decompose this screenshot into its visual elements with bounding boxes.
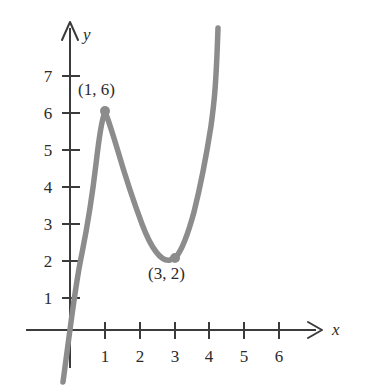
y-axis-label: y — [83, 26, 91, 43]
x-tick-label-2: 2 — [131, 348, 149, 365]
max-point-label: (1, 6) — [78, 81, 115, 98]
x-tick-label-5: 5 — [235, 348, 253, 365]
graph-figure: y x 7 6 5 4 3 2 1 1 2 3 4 5 6 (1, 6) (3,… — [0, 0, 371, 392]
x-axis-label: x — [332, 321, 340, 338]
min-point-marker — [170, 253, 180, 263]
x-tick-label-3: 3 — [166, 348, 184, 365]
max-point-marker — [100, 106, 110, 116]
y-tick-label-3: 3 — [39, 216, 57, 233]
y-tick-label-6: 6 — [39, 105, 57, 122]
x-tick-label-4: 4 — [200, 348, 218, 365]
x-tick-label-1: 1 — [96, 348, 114, 365]
y-tick-label-7: 7 — [39, 68, 57, 85]
plot-canvas — [0, 0, 371, 392]
y-tick-label-1: 1 — [39, 290, 57, 307]
min-point-label: (3, 2) — [148, 265, 185, 282]
x-tick-label-6: 6 — [270, 348, 288, 365]
y-tick-label-5: 5 — [39, 142, 57, 159]
y-tick-label-2: 2 — [39, 253, 57, 270]
y-tick-label-4: 4 — [39, 179, 57, 196]
